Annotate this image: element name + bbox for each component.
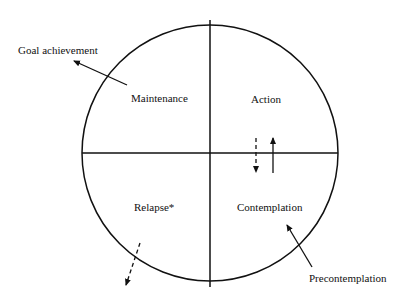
goal-achievement-label: Goal achievement bbox=[18, 44, 98, 56]
action-label: Action bbox=[251, 93, 281, 105]
contemplation-label: Contemplation bbox=[237, 201, 302, 213]
precontemplation-label: Precontemplation bbox=[309, 272, 387, 284]
goal-arrow-icon bbox=[74, 61, 127, 85]
relapse-label: Relapse* bbox=[134, 201, 174, 213]
maintenance-label: Maintenance bbox=[131, 92, 188, 104]
relapse-exit-arrow-icon bbox=[126, 243, 140, 285]
precontemplation-arrow-icon bbox=[287, 225, 312, 267]
